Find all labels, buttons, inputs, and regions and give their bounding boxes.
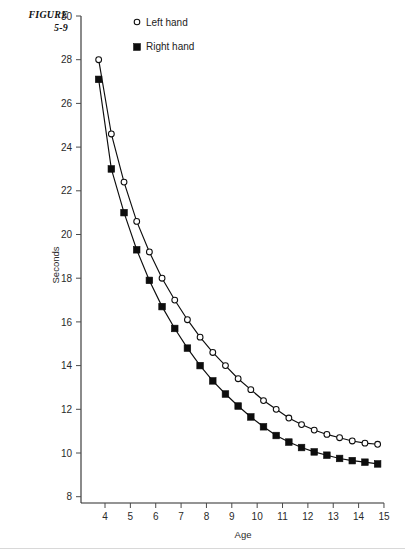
data-point-filled-square (235, 403, 242, 410)
x-tick-label: 10 (252, 511, 264, 522)
data-point-open-circle (134, 218, 140, 224)
y-tick-label: 14 (61, 360, 73, 371)
y-tick-label: 22 (61, 185, 73, 196)
data-point-filled-square (95, 76, 102, 83)
data-point-open-circle (235, 376, 241, 382)
data-point-filled-square (248, 414, 255, 421)
legend-label-left-hand: Left hand (146, 17, 188, 28)
x-tick-label: 12 (302, 511, 314, 522)
y-tick-label: 8 (66, 491, 72, 502)
data-point-open-circle (96, 57, 102, 63)
data-point-filled-square (197, 362, 204, 369)
data-point-open-circle (324, 432, 330, 438)
chart-plot-area: 81012141618202224262830 4567891011121314… (0, 0, 405, 553)
data-point-open-circle (159, 275, 165, 281)
line-chart: 81012141618202224262830 4567891011121314… (0, 0, 405, 553)
data-point-open-circle (108, 131, 114, 137)
data-point-filled-square (286, 439, 293, 446)
filled-square-marker (134, 44, 141, 51)
data-point-open-circle (286, 415, 292, 421)
data-point-filled-square (133, 246, 140, 253)
data-point-open-circle (146, 249, 152, 255)
data-point-filled-square (273, 432, 280, 439)
data-point-open-circle (261, 398, 267, 404)
x-tick-label: 9 (229, 511, 235, 522)
data-point-open-circle (197, 334, 203, 340)
x-tick-label: 14 (353, 511, 365, 522)
data-series-group (95, 57, 381, 467)
y-tick-label: 18 (61, 273, 73, 284)
data-point-open-circle (172, 297, 178, 303)
x-tick-label: 7 (178, 511, 184, 522)
y-tick-label: 24 (61, 142, 73, 153)
y-tick-label: 12 (61, 404, 73, 415)
x-tick-label: 13 (328, 511, 340, 522)
x-tick-label: 11 (277, 511, 288, 522)
data-point-filled-square (171, 325, 178, 332)
data-point-filled-square (159, 303, 166, 310)
y-tick-label: 10 (61, 448, 73, 459)
data-point-open-circle (349, 438, 355, 444)
x-tick-label: 15 (378, 511, 390, 522)
page-bottom-rule (0, 548, 405, 549)
data-point-open-circle (337, 435, 343, 441)
x-tick-label: 4 (102, 511, 108, 522)
data-point-open-circle (299, 422, 305, 428)
x-axis-title: Age (235, 529, 252, 540)
data-point-open-circle (210, 350, 216, 356)
data-point-filled-square (209, 378, 216, 385)
y-tick-label: 20 (61, 229, 73, 240)
data-point-open-circle (185, 317, 191, 323)
open-circle-marker (134, 19, 140, 25)
y-tick-label: 30 (61, 11, 73, 22)
data-point-filled-square (362, 459, 369, 466)
y-tick-label: 28 (61, 54, 73, 65)
data-point-filled-square (260, 423, 267, 430)
data-point-open-circle (121, 179, 127, 185)
data-point-filled-square (121, 209, 128, 216)
data-point-open-circle (273, 406, 279, 412)
data-point-open-circle (375, 441, 381, 447)
data-point-filled-square (108, 166, 115, 173)
data-point-filled-square (222, 391, 229, 398)
data-point-filled-square (298, 444, 305, 451)
data-point-filled-square (146, 277, 153, 284)
data-point-filled-square (311, 449, 318, 456)
data-point-open-circle (248, 387, 254, 393)
legend-label-right-hand: Right hand (146, 41, 194, 52)
y-tick-label: 26 (61, 98, 73, 109)
y-axis-title: Seconds (50, 246, 61, 283)
data-point-open-circle (362, 440, 368, 446)
data-point-filled-square (184, 345, 191, 352)
chart-legend: Left hand Right hand (134, 17, 195, 53)
series-right-hand (95, 76, 381, 467)
data-point-filled-square (336, 455, 343, 462)
x-tick-label: 8 (204, 511, 210, 522)
x-tick-label: 6 (153, 511, 159, 522)
data-point-filled-square (349, 457, 356, 464)
data-point-filled-square (324, 452, 331, 459)
data-point-open-circle (223, 363, 229, 369)
y-tick-label: 16 (61, 317, 73, 328)
y-axis: 81012141618202224262830 (61, 11, 81, 503)
data-point-open-circle (311, 427, 317, 433)
data-point-filled-square (374, 461, 381, 468)
x-axis: 456789101112131415 (81, 503, 390, 522)
x-tick-label: 5 (128, 511, 134, 522)
